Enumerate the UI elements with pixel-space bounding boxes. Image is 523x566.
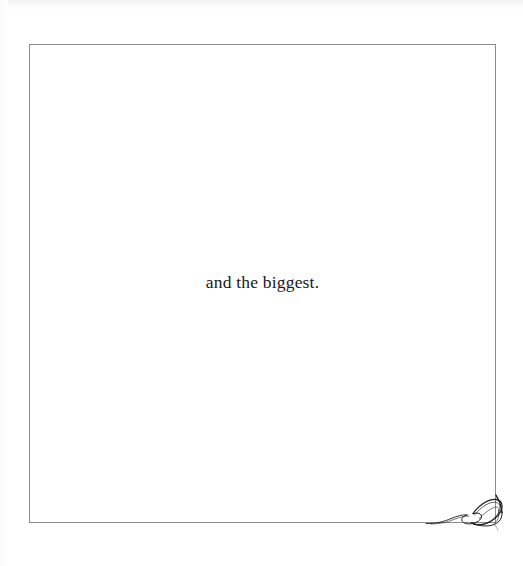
caption-area: and the biggest.	[29, 44, 496, 523]
page-caption: and the biggest.	[206, 272, 320, 293]
scan-edge-tint-left	[0, 0, 8, 566]
scan-edge-tint-top	[0, 0, 523, 10]
book-page: and the biggest.	[0, 0, 523, 566]
